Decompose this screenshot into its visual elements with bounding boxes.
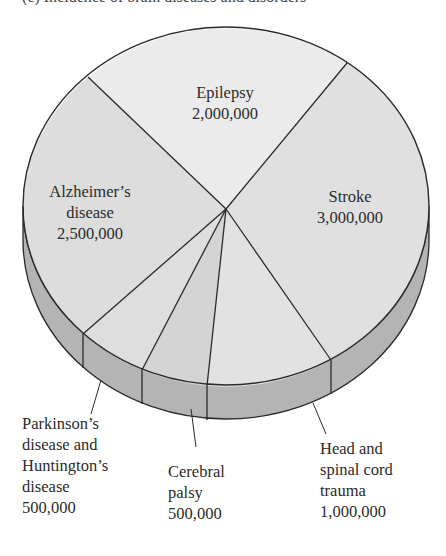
label-head-spinal-trauma: Head and spinal cord trauma 1,000,000 xyxy=(320,438,393,522)
leader-parkinsons xyxy=(91,380,101,414)
label-parkinsons-huntingtons: Parkinson’s disease and Huntington’s dis… xyxy=(22,413,108,518)
label-alzheimers: Alzheimer’s disease 2,500,000 xyxy=(30,181,150,244)
label-epilepsy: Epilepsy 2,000,000 xyxy=(160,82,290,124)
label-stroke: Stroke 3,000,000 xyxy=(290,186,410,228)
figure-caption-partial: (c) Incidence of brain diseases and diso… xyxy=(22,0,306,6)
label-cerebral-palsy: Cerebral palsy 500,000 xyxy=(168,461,225,524)
leader-head-trauma xyxy=(313,403,326,434)
